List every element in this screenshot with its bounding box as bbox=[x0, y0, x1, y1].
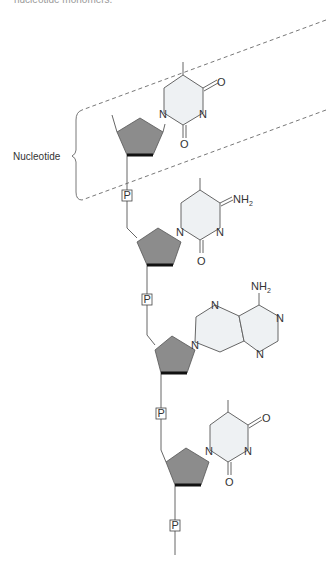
phosphate-4: P bbox=[170, 519, 180, 531]
bracket-icon bbox=[72, 110, 82, 200]
deoxyribose-sugar-icon bbox=[155, 336, 195, 373]
phosphate-3: P bbox=[156, 407, 166, 419]
svg-text:O: O bbox=[225, 476, 234, 488]
backbone bbox=[112, 115, 175, 555]
svg-text:N: N bbox=[199, 108, 207, 120]
nucleotide-3: N N N N NH2 bbox=[155, 280, 284, 373]
svg-text:P: P bbox=[144, 293, 151, 305]
svg-text:N: N bbox=[159, 108, 167, 120]
svg-text:O: O bbox=[262, 412, 271, 424]
svg-text:N: N bbox=[205, 445, 213, 457]
svg-text:N: N bbox=[244, 445, 252, 457]
dna-strand-diagram: Nucleotide N N O O P N bbox=[0, 0, 326, 567]
svg-text:O: O bbox=[180, 138, 189, 150]
phosphate-2: P bbox=[142, 293, 152, 305]
deoxyribose-sugar-icon bbox=[137, 228, 181, 265]
nucleotide-2: N N O NH2 bbox=[137, 178, 253, 267]
phosphate-1: P bbox=[122, 189, 132, 201]
svg-text:P: P bbox=[158, 407, 165, 419]
svg-text:O: O bbox=[197, 255, 206, 267]
svg-text:N: N bbox=[211, 299, 219, 311]
nucleotide-label: Nucleotide bbox=[13, 151, 61, 162]
svg-text:NH2: NH2 bbox=[233, 193, 253, 207]
deoxyribose-sugar-icon bbox=[117, 118, 163, 155]
svg-text:N: N bbox=[276, 312, 284, 324]
nucleotide-4: N N O O bbox=[166, 400, 271, 488]
svg-text:N: N bbox=[256, 348, 264, 360]
svg-text:N: N bbox=[176, 226, 184, 238]
svg-text:O: O bbox=[217, 76, 226, 88]
svg-text:P: P bbox=[172, 519, 179, 531]
deoxyribose-sugar-icon bbox=[166, 448, 209, 485]
svg-text:P: P bbox=[124, 189, 131, 201]
nucleotide-1: N N O O bbox=[117, 62, 226, 155]
svg-text:NH2: NH2 bbox=[251, 280, 271, 294]
svg-text:N: N bbox=[191, 339, 199, 351]
svg-text:N: N bbox=[216, 226, 224, 238]
